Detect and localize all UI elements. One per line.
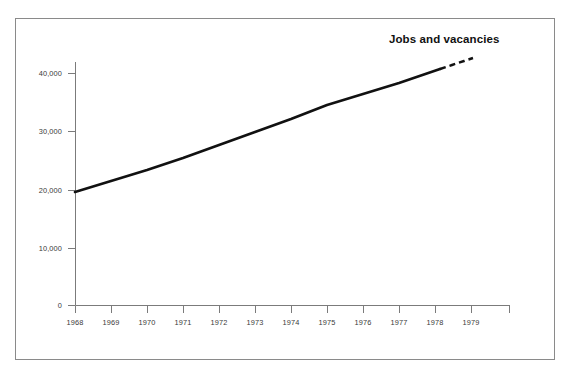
data-line-dashed [440,58,473,69]
x-tick-label-1972: 1972 [205,318,233,327]
x-tick-label-1973: 1973 [241,318,269,327]
x-tick-label-1976: 1976 [349,318,377,327]
x-axis-ticks [76,306,510,314]
x-tick-label-1979: 1979 [457,318,485,327]
data-line-solid [75,69,440,192]
figure-canvas: Jobs and vacancies 40,000 30,000 20,000 … [0,0,570,370]
chart-title: Jobs and vacancies [389,33,499,45]
x-tick-label-1970: 1970 [133,318,161,327]
line-chart-plot [0,0,570,370]
x-tick-label-1974: 1974 [277,318,305,327]
x-tick-label-1978: 1978 [421,318,449,327]
x-tick-label-1971: 1971 [169,318,197,327]
y-tick-label-10000: 10,000 [14,244,62,253]
y-tick-label-40000: 40,000 [14,69,62,78]
x-tick-label-1977: 1977 [385,318,413,327]
y-tick-label-30000: 30,000 [14,127,62,136]
x-tick-label-1969: 1969 [97,318,125,327]
y-tick-label-0: 0 [14,301,62,310]
y-tick-label-20000: 20,000 [14,186,62,195]
x-tick-label-1968: 1968 [61,318,89,327]
y-axis-ticks [68,74,76,306]
x-tick-label-1975: 1975 [313,318,341,327]
